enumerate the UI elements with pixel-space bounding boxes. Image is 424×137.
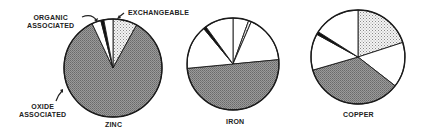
label-organic-line1: ORGANIC (27, 14, 74, 22)
pie-iron (187, 18, 279, 110)
pie-copper (311, 10, 405, 104)
label-copper: COPPER (343, 111, 374, 119)
label-organic-line2: ASSOCIATED (27, 22, 74, 30)
oxide-arrow (56, 91, 62, 101)
label-exchangeable: EXCHANGEABLE (128, 9, 189, 17)
label-zinc: ZINC (105, 121, 122, 129)
label-oxide-line2: ASSOCIATED (19, 111, 66, 119)
label-copper-text: COPPER (343, 111, 374, 119)
label-iron-text: IRON (226, 118, 244, 126)
pie-zinc (64, 19, 162, 117)
label-zinc-text: ZINC (105, 121, 122, 129)
label-oxide-line1: OXIDE (19, 103, 66, 111)
label-organic-associated: ORGANIC ASSOCIATED (27, 14, 74, 30)
label-oxide-associated: OXIDE ASSOCIATED (19, 103, 66, 119)
label-exchangeable-text: EXCHANGEABLE (128, 9, 189, 17)
label-iron: IRON (226, 118, 244, 126)
